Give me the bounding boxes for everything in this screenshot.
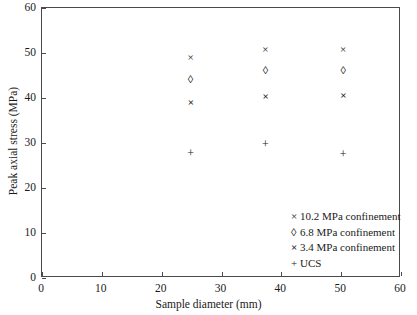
scatter-chart-figure: Peak axial stress (MPa) Sample diameter … (0, 0, 417, 315)
data-point-marker: ◊ (188, 74, 193, 85)
data-point-marker: × (187, 52, 193, 63)
y-tick (42, 98, 46, 99)
data-point-marker: × (340, 44, 346, 55)
data-point-marker: × (188, 96, 194, 107)
x-tick-label: 20 (141, 282, 181, 294)
data-point-marker: × (340, 89, 346, 100)
y-tick (42, 53, 46, 54)
data-point-marker: + (187, 147, 194, 159)
legend-label: 3.4 MPa confinement (300, 240, 395, 256)
x-tick-label: 60 (380, 282, 417, 294)
x-tick-label: 50 (320, 282, 360, 294)
x-tick (281, 272, 282, 276)
x-tick (42, 272, 43, 276)
legend-label: UCS (300, 256, 321, 272)
legend-marker-icon: × (291, 209, 300, 225)
legend-item: ◊6.8 MPa confinement (291, 225, 415, 241)
data-point-marker: × (262, 91, 268, 102)
legend-label: 10.2 MPa confinement (300, 209, 401, 225)
x-tick (222, 272, 223, 276)
x-tick-label: 40 (260, 282, 300, 294)
y-tick-label: 60 (6, 1, 36, 13)
x-tick (162, 272, 163, 276)
legend-marker-icon: ◊ (291, 225, 300, 241)
chart-legend: ×10.2 MPa confinement◊6.8 MPa confinemen… (291, 209, 415, 271)
data-point-marker: + (340, 148, 347, 160)
legend-item: ×3.4 MPa confinement (291, 240, 415, 256)
data-point-marker: ◊ (340, 65, 345, 76)
legend-item: ×10.2 MPa confinement (291, 209, 415, 225)
y-tick-label: 30 (6, 136, 36, 148)
x-tick-label: 30 (201, 282, 241, 294)
y-tick (42, 278, 46, 279)
legend-item: +UCS (291, 256, 415, 272)
legend-label: 6.8 MPa confinement (300, 225, 395, 241)
y-tick (42, 188, 46, 189)
x-axis-title: Sample diameter (mm) (0, 298, 417, 310)
x-tick-label: 10 (81, 282, 121, 294)
y-tick-label: 50 (6, 46, 36, 58)
legend-marker-icon: × (291, 240, 300, 256)
x-tick-label: 0 (21, 282, 61, 294)
x-tick (401, 272, 402, 276)
y-tick-label: 10 (6, 226, 36, 238)
y-tick-label: 40 (6, 91, 36, 103)
data-point-marker: ◊ (263, 65, 268, 76)
data-point-marker: + (262, 138, 269, 150)
data-point-marker: × (262, 43, 268, 54)
y-tick-label: 0 (6, 271, 36, 283)
legend-marker-icon: + (291, 256, 300, 272)
x-tick (102, 272, 103, 276)
y-tick (42, 8, 46, 9)
y-tick (42, 143, 46, 144)
y-tick (42, 233, 46, 234)
x-tick (341, 272, 342, 276)
y-tick-label: 20 (6, 181, 36, 193)
